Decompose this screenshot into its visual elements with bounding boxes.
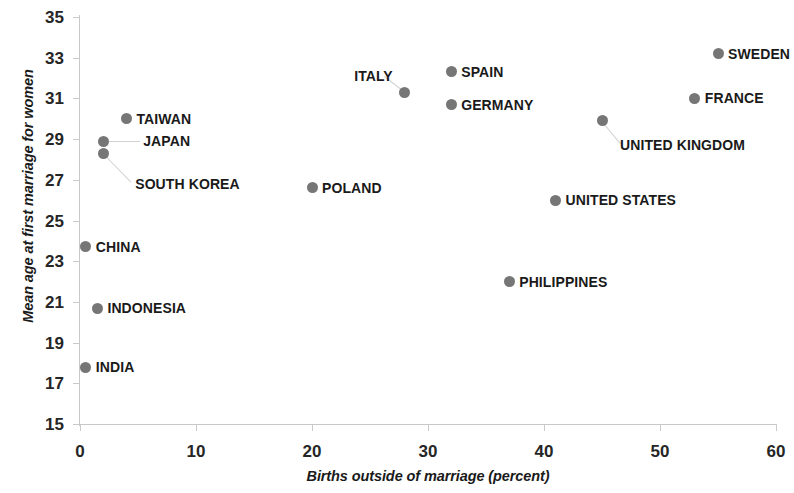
x-tick-mark [312, 424, 313, 431]
x-tick-mark [428, 424, 429, 431]
x-tick-mark [196, 424, 197, 431]
data-point-label: ITALY [354, 69, 393, 83]
data-point-label: UNITED STATES [566, 193, 676, 207]
y-tick-label: 29 [24, 131, 64, 148]
x-tick-mark [80, 424, 81, 431]
data-point-marker[interactable] [446, 66, 457, 77]
y-tick-mark [73, 17, 80, 18]
data-point-marker[interactable] [80, 241, 91, 252]
y-tick-label: 31 [24, 90, 64, 107]
y-tick-label: 33 [24, 50, 64, 67]
data-point-marker[interactable] [92, 303, 103, 314]
y-tick-mark [73, 98, 80, 99]
x-tick-label: 60 [746, 443, 794, 460]
x-tick-mark [544, 424, 545, 431]
x-tick-label: 30 [398, 443, 458, 460]
y-tick-mark [73, 383, 80, 384]
y-tick-label: 21 [24, 294, 64, 311]
y-tick-label: 15 [24, 416, 64, 433]
y-tick-mark [73, 221, 80, 222]
y-tick-mark [73, 139, 80, 140]
x-tick-label: 50 [630, 443, 690, 460]
data-point-marker[interactable] [121, 113, 132, 124]
x-tick-mark [776, 424, 777, 431]
data-point-label: SOUTH KOREA [135, 177, 240, 191]
y-tick-label: 35 [24, 9, 64, 26]
y-tick-mark [73, 302, 80, 303]
data-point-label: INDONESIA [107, 301, 186, 315]
x-tick-mark [660, 424, 661, 431]
data-point-marker[interactable] [689, 93, 700, 104]
x-tick-label: 0 [50, 443, 110, 460]
y-tick-mark [73, 424, 80, 425]
y-tick-label: 25 [24, 213, 64, 230]
y-tick-mark [73, 261, 80, 262]
data-point-marker[interactable] [80, 362, 91, 373]
y-tick-label: 19 [24, 335, 64, 352]
data-point-label: FRANCE [705, 91, 764, 105]
data-point-label: SPAIN [461, 65, 503, 79]
leader-line [103, 153, 132, 182]
x-axis-title: Births outside of marriage (percent) [80, 468, 776, 484]
data-point-marker[interactable] [98, 148, 109, 159]
x-tick-label: 10 [166, 443, 226, 460]
data-point-label: CHINA [96, 240, 141, 254]
y-tick-label: 17 [24, 375, 64, 392]
scatter-chart: Mean age at first marriage for women Bir… [0, 0, 794, 493]
data-point-label: GERMANY [461, 98, 533, 112]
data-point-marker[interactable] [98, 136, 109, 147]
data-point-marker[interactable] [399, 87, 410, 98]
data-point-label: POLAND [322, 181, 382, 195]
data-point-label: JAPAN [143, 134, 190, 148]
y-tick-label: 23 [24, 253, 64, 270]
data-point-label: UNITED KINGDOM [620, 138, 745, 152]
data-point-marker[interactable] [446, 99, 457, 110]
data-point-marker[interactable] [597, 115, 608, 126]
y-tick-mark [73, 343, 80, 344]
data-point-label: PHILIPPINES [519, 275, 607, 289]
x-tick-label: 20 [282, 443, 342, 460]
data-point-marker[interactable] [504, 276, 515, 287]
data-point-label: INDIA [96, 360, 135, 374]
y-tick-label: 27 [24, 172, 64, 189]
y-axis-title: Mean age at first marriage for women [20, 31, 36, 361]
leader-line [103, 141, 140, 142]
y-tick-mark [73, 180, 80, 181]
data-point-marker[interactable] [550, 195, 561, 206]
y-tick-mark [73, 58, 80, 59]
data-point-marker[interactable] [713, 48, 724, 59]
data-point-label: SWEDEN [728, 47, 790, 61]
data-point-marker[interactable] [307, 182, 318, 193]
data-point-label: TAIWAN [136, 112, 191, 126]
x-tick-label: 40 [514, 443, 574, 460]
